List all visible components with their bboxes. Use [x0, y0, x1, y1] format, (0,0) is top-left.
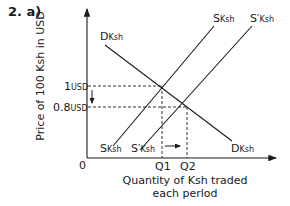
supply-label-top: SKsh	[213, 13, 234, 24]
supply-label-bottom-sub: Ksh	[107, 145, 121, 154]
supply-shifted-label-bottom: S′Ksh	[131, 143, 155, 154]
supply-label-top-main: S	[213, 12, 220, 25]
demand-label-bottom: DKsh	[231, 143, 254, 154]
y-axis-label: Price of 100 Ksh in USD	[34, 11, 47, 140]
supply-shifted-label-bottom-sub: Ksh	[140, 145, 154, 154]
price-tick-08: 0.8USD	[53, 102, 88, 113]
demand-curve	[105, 45, 232, 141]
x-axis-label-line1: Quantity of Ksh traded	[105, 174, 265, 187]
supply-shifted-label-top-sub: Ksh	[259, 15, 273, 24]
origin-label: 0	[79, 160, 86, 171]
demand-label-top: DKsh	[100, 31, 123, 42]
q2-label: Q2	[180, 161, 196, 172]
price-tick-08-unit: USD	[71, 104, 88, 113]
supply-label-top-sub: Ksh	[220, 15, 234, 24]
price-tick-08-value: 0.8	[53, 101, 71, 114]
price-tick-1-unit: USD	[71, 83, 88, 92]
x-axis-label-line2: each perlod	[105, 187, 265, 200]
demand-label-bottom-sub: Ksh	[239, 145, 253, 154]
q1-label: Q1	[155, 161, 171, 172]
price-tick-1-value: 1	[64, 80, 71, 93]
supply-shifted-label-top: S′Ksh	[250, 13, 274, 24]
supply-label-bottom: SKsh	[100, 143, 121, 154]
price-tick-1: 1USD	[64, 81, 88, 92]
demand-label-top-sub: Ksh	[108, 33, 122, 42]
supply-demand-diagram: 2. a) Price of 100 Ksh in USD	[0, 0, 290, 206]
supply-label-bottom-main: S	[100, 142, 107, 155]
x-axis-label: Quantity of Ksh traded each perlod	[105, 174, 265, 200]
supply-shifted-curve	[140, 26, 252, 150]
